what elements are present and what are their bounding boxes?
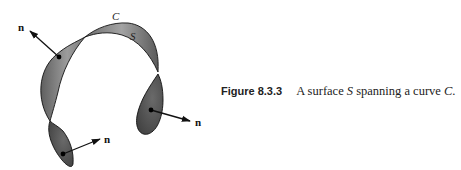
caption-text-middle: spanning a curve [353,84,444,98]
normal-base-point-upper-left [57,55,62,60]
caption-text-after: . [452,84,455,98]
surface-right-lobe [137,74,163,134]
figure-caption: Figure 8.3.3 A surface S spanning a curv… [221,81,455,99]
normal-base-point-bottom-left [61,152,66,157]
surface-bottom-lobe [49,121,73,167]
normal-label-right: n [195,116,201,128]
normal-label-upper-left: n [18,21,24,33]
surface-upper-band [85,23,158,72]
surface-diagram: n n n C S [0,0,230,170]
caption-text-before: A surface [296,84,347,98]
surface-left-band [41,37,85,121]
normal-label-bottom-left: n [104,133,110,145]
curve-label: C [112,10,120,22]
figure-number: Figure 8.3.3 [221,85,282,97]
normal-base-point-right [149,108,154,113]
caption-text: A surface S spanning a curve C. [296,84,455,98]
surface-label: S [130,30,136,42]
normal-vector-upper-left [30,31,59,57]
